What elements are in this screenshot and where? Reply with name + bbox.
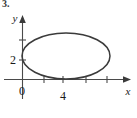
coordinate-plane-svg: 0 4 2 x y 3. [0,0,137,118]
origin-label: 0 [19,84,25,98]
y-axis-label: y [12,12,18,24]
ellipse-curve [22,33,110,79]
x-axis-arrow-icon [123,76,131,83]
problem-number: 3. [2,0,10,9]
y-tick-label-2: 2 [10,53,16,67]
x-axis-label: x [125,85,131,97]
x-tick-label-4: 4 [60,89,66,103]
math-figure: 0 4 2 x y 3. [0,0,137,118]
y-axis-arrow-icon [19,15,26,23]
